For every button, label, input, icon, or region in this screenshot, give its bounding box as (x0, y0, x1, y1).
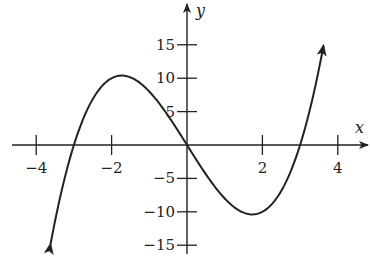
y-tick-label: −10 (143, 203, 175, 221)
y-tick-label: −15 (143, 236, 175, 254)
x-tick-label: 4 (333, 159, 343, 177)
cubic-function-graph: −4−22415105−5−10−15 x y (0, 0, 370, 256)
plot-area: −4−22415105−5−10−15 x y (0, 0, 370, 256)
y-tick-label: 10 (156, 69, 175, 87)
x-axis-label: x (355, 118, 364, 137)
axes (12, 4, 368, 254)
x-tick-label: 2 (258, 159, 268, 177)
y-tick-label: 15 (156, 36, 175, 54)
y-axis-label: y (195, 1, 206, 20)
y-tick-label: −5 (153, 169, 175, 187)
x-tick-label: −4 (25, 159, 47, 177)
x-tick-label: −2 (101, 159, 123, 177)
